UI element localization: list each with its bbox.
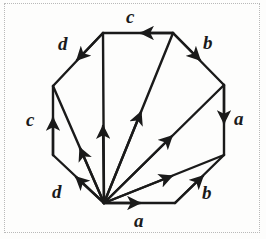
diagonal-to-left-top-arrow <box>80 148 104 203</box>
edge-label-a-right: a <box>234 109 244 128</box>
edge-label-b-top-right: b <box>203 33 213 52</box>
octagon-diagram <box>0 0 266 239</box>
edge-b-bottom-right-arrow <box>175 176 203 203</box>
diagonal-to-top-left-arrow <box>103 126 104 203</box>
edge-label-d-top-left: d <box>58 34 68 53</box>
edge-label-c-left: c <box>26 110 34 129</box>
edge-label-a-bottom: a <box>134 211 144 230</box>
edge-d-bottom-left-arrow <box>76 177 104 203</box>
figure-frame: c b a b a d c d <box>0 0 266 239</box>
edge-b-top-right-arrow <box>173 33 200 60</box>
diagonal-to-right-top-arrow <box>104 136 172 203</box>
edge-label-d-bottom-left: d <box>52 182 62 201</box>
edge-label-b-bottom-right: b <box>202 183 212 202</box>
edge-label-c-top: c <box>126 7 134 26</box>
edge-d-top-left-arrow <box>77 33 103 60</box>
